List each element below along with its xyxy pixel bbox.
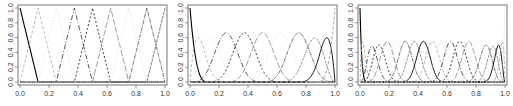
y-tick-label: 0.2 [347, 62, 354, 72]
basis-curve [190, 8, 335, 82]
y-tick-label: 0.2 [177, 62, 184, 72]
y-tick-label: 0.4 [347, 47, 354, 57]
basis-curve [190, 33, 335, 82]
basis-curve [360, 45, 505, 82]
basis-curve [190, 33, 335, 82]
basis-curve [20, 8, 165, 82]
basis-curve [20, 8, 165, 82]
y-tick-label: 0.8 [7, 18, 14, 28]
y-tick-label: 0.0 [7, 77, 14, 87]
basis-curve [20, 8, 165, 82]
x-tick-label: 1.0 [500, 90, 510, 97]
x-tick-label: 0.8 [471, 90, 481, 97]
y-tick-label: 1.0 [347, 3, 354, 13]
basis-curve [360, 45, 505, 82]
x-tick-label: 0.2 [44, 90, 54, 97]
basis-curve [360, 45, 505, 82]
y-tick-label: 0.0 [347, 77, 354, 87]
y-tick-label: 0.6 [7, 33, 14, 43]
basis-curve [20, 8, 165, 82]
y-tick-label: 0.8 [177, 18, 184, 28]
bspline-degree5-plot: 0.00.20.40.60.81.00.00.20.40.60.81.0 [342, 0, 513, 106]
x-tick-label: 0.8 [301, 90, 311, 97]
x-tick-label: 0.8 [131, 90, 141, 97]
x-tick-label: 0.4 [413, 90, 423, 97]
x-tick-label: 1.0 [160, 90, 170, 97]
basis-curve [190, 8, 335, 82]
plot-frame [358, 5, 507, 85]
basis-curve [360, 8, 505, 82]
x-tick-label: 0.0 [355, 90, 365, 97]
chart-panel-linear: 0.00.20.40.60.81.00.00.20.40.60.81.0 [0, 0, 171, 106]
basis-curve [20, 8, 165, 82]
basis-curve [20, 8, 165, 82]
basis-curve [190, 33, 335, 82]
plot-frame [188, 5, 337, 85]
y-tick-label: 0.0 [177, 77, 184, 87]
basis-curve [20, 8, 165, 82]
y-tick-label: 0.8 [347, 18, 354, 28]
y-tick-label: 0.6 [347, 33, 354, 43]
x-tick-label: 0.2 [384, 90, 394, 97]
y-tick-label: 0.2 [7, 62, 14, 72]
bspline-degree1-plot: 0.00.20.40.60.81.00.00.20.40.60.81.0 [0, 0, 171, 106]
x-tick-label: 0.4 [243, 90, 253, 97]
y-tick-label: 0.6 [177, 33, 184, 43]
y-tick-label: 1.0 [7, 3, 14, 13]
x-tick-label: 0.6 [272, 90, 282, 97]
chart-panel-cubic: 0.00.20.40.60.81.00.00.20.40.60.81.0 [171, 0, 342, 106]
x-tick-label: 0.6 [442, 90, 452, 97]
basis-curve [20, 8, 165, 82]
y-tick-label: 0.4 [177, 47, 184, 57]
chart-panel-high-degree: 0.00.20.40.60.81.00.00.20.40.60.81.0 [342, 0, 513, 106]
basis-curve [360, 45, 505, 82]
basis-curve [20, 8, 165, 82]
basis-curve [190, 33, 335, 82]
basis-curve [360, 8, 505, 82]
x-tick-label: 0.6 [102, 90, 112, 97]
x-tick-label: 0.2 [214, 90, 224, 97]
x-tick-label: 1.0 [330, 90, 340, 97]
x-tick-label: 0.4 [73, 90, 83, 97]
x-tick-label: 0.0 [15, 90, 25, 97]
y-tick-label: 0.4 [7, 47, 14, 57]
y-tick-label: 1.0 [177, 3, 184, 13]
x-tick-label: 0.0 [185, 90, 195, 97]
basis-curve [190, 33, 335, 82]
bspline-degree3-plot: 0.00.20.40.60.81.00.00.20.40.60.81.0 [171, 0, 342, 106]
